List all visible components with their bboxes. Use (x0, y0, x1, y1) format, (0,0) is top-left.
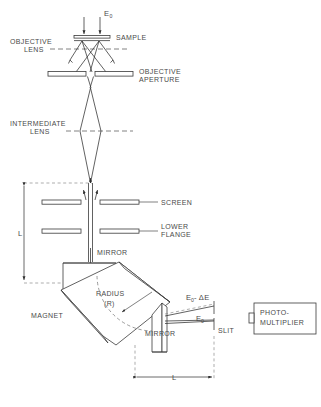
objective-aperture-label-line1: OBJECTIVE (139, 68, 181, 75)
sample-holder (74, 36, 110, 41)
intermediate-lens-label-line2: LENS (30, 128, 50, 135)
intermediate-beam-envelope (80, 88, 101, 183)
objective-aperture-label-line2: APERTURE (139, 76, 180, 83)
lower-flange-plates (42, 229, 158, 233)
horizontal-dimension-label: L (172, 373, 177, 382)
figure-root: E 0 SAMPLE OBJECTIVE LENS OBJECTIVE (0, 0, 321, 407)
slit-label: SLIT (218, 327, 235, 334)
lower-flange-label-line1: LOWER (161, 223, 188, 230)
lower-flange-label-line2: FLANGE (161, 231, 191, 238)
sample-label: SAMPLE (116, 34, 147, 41)
loss-beam-delta-label: - ΔE (194, 293, 210, 302)
objective-lens-label-line1: OBJECTIVE (10, 38, 52, 45)
intermediate-lens-label-line1: INTERMEDIATE (10, 120, 66, 127)
radius-label-line1: RADIUS (96, 290, 125, 297)
photomultiplier-label-line1: PHOTO- (260, 309, 290, 316)
vertical-dimension-label: L (18, 229, 23, 238)
photomultiplier-label-line2: MULTIPLIER (260, 319, 304, 326)
spectrometer-diagram: E 0 SAMPLE OBJECTIVE LENS OBJECTIVE (0, 0, 321, 407)
objective-ray-bundle (69, 41, 115, 72)
objective-lens-label-line2: LENS (24, 46, 44, 53)
radius-label-line2: (R) (104, 300, 115, 308)
screen-label: SCREEN (161, 199, 192, 206)
beam-energy-subscript: 0 (110, 13, 113, 19)
magnet-label: MAGNET (31, 312, 63, 319)
mirror-lower-label: MIRROR (145, 330, 176, 337)
aperture-crossover-rays (88, 77, 94, 89)
exit-beams (165, 304, 214, 324)
screen-plates (42, 200, 158, 204)
incident-beam-arrows (84, 17, 100, 34)
objective-aperture (48, 72, 133, 77)
mirror-upper-label: MIRROR (97, 249, 128, 256)
direct-beam-subscript: 0 (201, 318, 204, 324)
